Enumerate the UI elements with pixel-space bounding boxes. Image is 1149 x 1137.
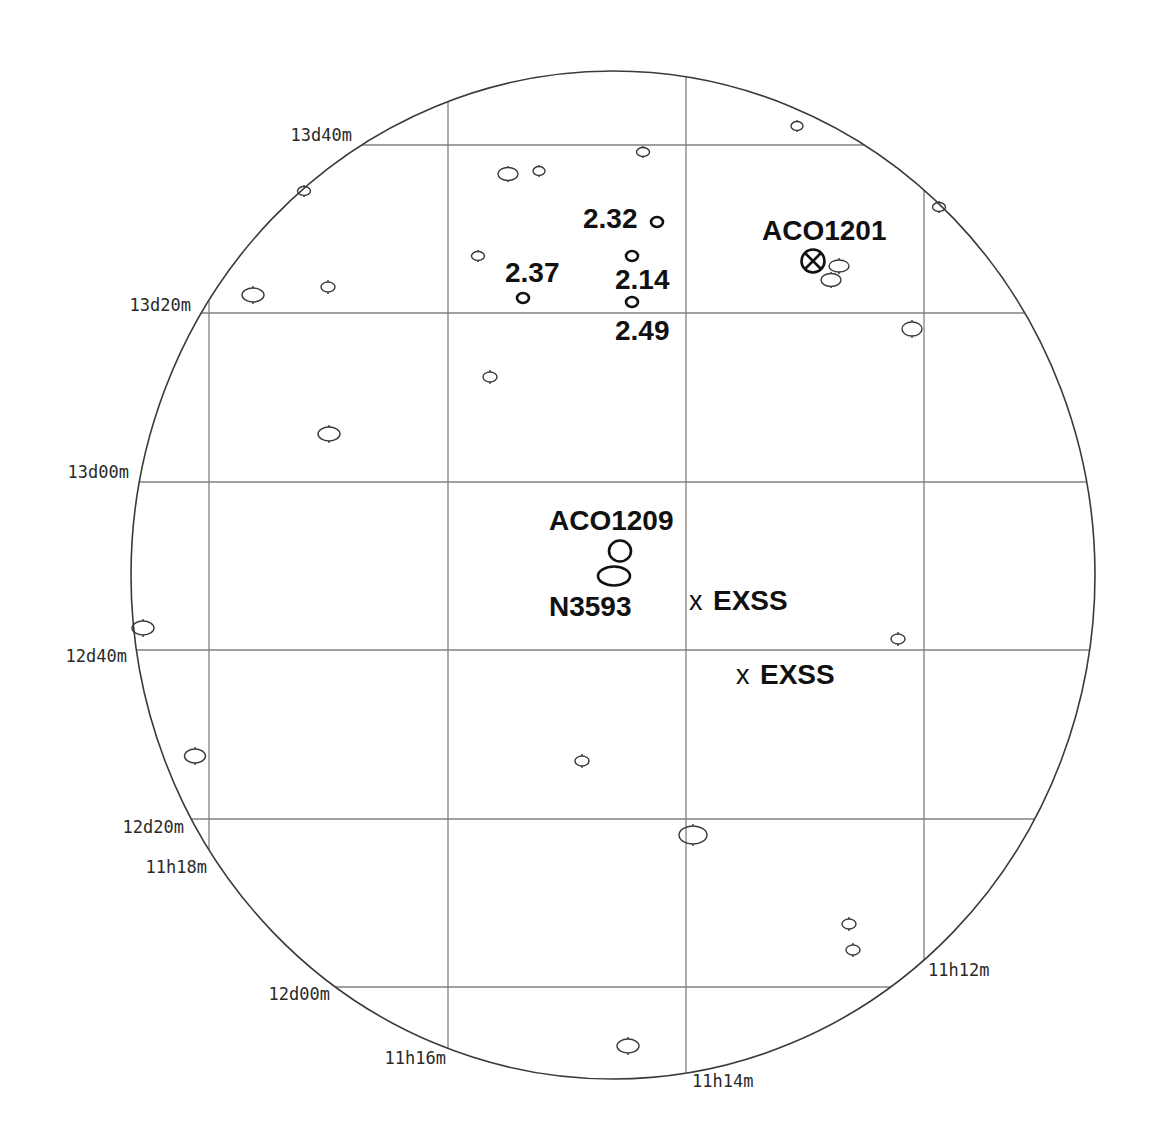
dec-label: 13d20m [130,295,191,315]
cluster-label-aco1201: ACO1201 [762,215,887,246]
exss-label: EXSS [713,585,788,616]
redshift-label-2-14: 2.14 [615,264,670,295]
source-marker [933,201,946,213]
source-marker [821,272,841,288]
source-marker [483,370,497,384]
source-marker [842,917,856,931]
source-marker [679,824,707,846]
dec-label: 12d00m [269,984,330,1004]
dec-label: 12d40m [66,646,127,666]
ra-label: 11h16m [385,1048,446,1068]
source-marker [829,258,849,274]
cluster-label-aco1209: ACO1209 [549,505,674,536]
redshift-label-2-37: 2.37 [505,257,560,288]
x-marker-icon: x [736,660,750,690]
source-marker [902,320,922,338]
source-marker [617,1037,639,1055]
source-marker [575,754,589,768]
source-marker [498,166,518,182]
source-marker [318,425,340,443]
source-marker [132,619,154,637]
source-marker [321,280,335,294]
quasar-marker-2-49 [626,297,638,307]
source-marker [298,185,311,197]
redshift-labels: 2.32 2.37 2.14 2.49 [505,203,670,346]
source-marker [791,120,803,132]
source-marker [846,943,860,957]
redshift-label-2-32: 2.32 [583,203,638,234]
x-marker-icon: x [689,586,703,616]
quasar-marker-2-14 [626,251,638,261]
galaxy-n3593: N3593 [549,567,632,623]
redshift-label-2-49: 2.49 [615,315,670,346]
source-marker [891,632,905,646]
cluster-aco1209: ACO1209 [549,505,674,562]
source-marker [472,250,485,262]
dec-label: 13d40m [291,125,352,145]
dec-label: 13d00m [68,462,129,482]
ra-axis-labels: 11h18m 11h16m 11h14m 11h12m [146,857,990,1091]
source-marker [242,286,264,304]
source-marker [637,146,650,158]
ra-label: 11h14m [692,1071,753,1091]
quasar-marker-2-37 [517,293,529,303]
galaxy-marker-n3593 [598,567,630,586]
crossed-circle-icon [802,250,825,273]
ra-label: 11h18m [146,857,207,877]
exss-label: EXSS [760,659,835,690]
source-marker [533,165,545,177]
dec-label: 12d20m [123,817,184,837]
sky-finder-chart: 13d40m 13d20m 13d00m 12d40m 12d20m 12d00… [0,0,1149,1137]
cluster-aco1201: ACO1201 [762,215,887,273]
ra-label: 11h12m [928,960,989,980]
exss-source-2: x EXSS [736,659,835,690]
exss-source-1: x EXSS [689,585,788,616]
galaxy-label-n3593: N3593 [549,591,632,622]
source-marker [185,747,206,765]
quasar-marker-2-32 [651,217,663,227]
cluster-marker-aco1209 [609,541,631,562]
